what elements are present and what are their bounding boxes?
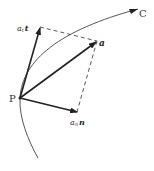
label-normal: ann xyxy=(70,117,85,127)
diagram-canvas: P C att a ann xyxy=(0,0,154,171)
point-p xyxy=(19,97,22,100)
curve-arrow-icon xyxy=(129,9,138,14)
vector-normal xyxy=(20,98,77,112)
label-acceleration: a xyxy=(99,38,105,48)
vector-tangential xyxy=(20,28,40,98)
label-curve-c: C xyxy=(139,8,147,19)
dashed-line-right xyxy=(77,41,97,112)
vector-acceleration xyxy=(20,42,96,98)
label-point-p: P xyxy=(9,93,16,104)
curve-c xyxy=(20,9,138,158)
label-tangential: att xyxy=(17,23,29,33)
dashed-line-top xyxy=(40,27,97,41)
